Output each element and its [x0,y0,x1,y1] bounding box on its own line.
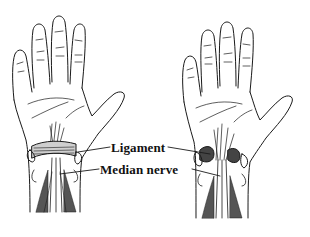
median-nerve-label: Median nerve [100,163,178,176]
right-hand [183,22,293,218]
hands-illustration [0,0,310,237]
nerve-leader-left [60,169,99,174]
left-hand [13,16,125,212]
nerve-leader-right [192,169,220,176]
ligament-leader-left [78,147,110,152]
ligament-label: Ligament [111,141,165,154]
carpal-tunnel-figure: Ligament Median nerve [0,0,310,237]
